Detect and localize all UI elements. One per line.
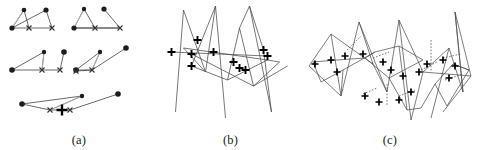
subfigure-middle-left bbox=[12, 52, 64, 70]
panel-c-polyline-one bbox=[309, 12, 471, 120]
subfigure-bottom bbox=[22, 94, 118, 110]
panel-b-drawing bbox=[158, 0, 303, 128]
subfigure-top-left bbox=[12, 10, 52, 28]
figure-container: (a) bbox=[0, 0, 477, 150]
panel-c-drawing bbox=[303, 0, 477, 128]
panel-b-caption: (b) bbox=[158, 133, 303, 148]
panel-a: (a) bbox=[0, 0, 158, 150]
subfigure-top-right bbox=[74, 9, 120, 28]
panel-c: (c) bbox=[303, 0, 477, 150]
panel-a-caption: (a) bbox=[0, 133, 158, 148]
panel-a-drawing bbox=[0, 0, 158, 128]
panel-c-caption: (c) bbox=[303, 133, 477, 148]
panel-b: (b) bbox=[158, 0, 303, 150]
